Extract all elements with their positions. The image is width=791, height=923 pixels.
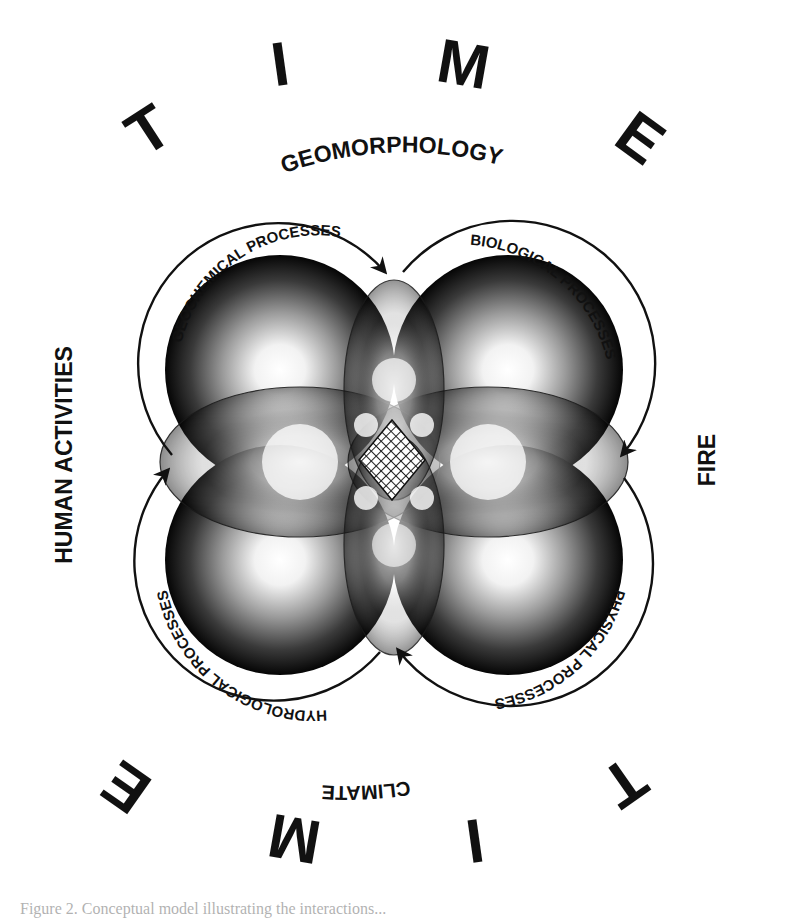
- time-letter-e: E: [604, 98, 678, 178]
- time-letter-m: M: [432, 25, 495, 102]
- time-letters-bottom: E M I T: [89, 743, 660, 877]
- driver-fire: FIRE: [694, 434, 720, 486]
- figure-caption: Figure 2. Conceptual model illustrating …: [20, 900, 780, 923]
- driver-geomorphology: GEOMORPHOLOGY: [277, 131, 505, 178]
- time-letter-t-bottom: T: [589, 743, 660, 821]
- time-letter-t: T: [114, 91, 183, 170]
- ecosystem-process-diagram: T I M E E M I T GEOMORPHOLOGY HUMAN ACTI…: [0, 0, 791, 923]
- time-letter-i: I: [267, 28, 294, 99]
- time-letter-m-bottom: M: [263, 801, 326, 878]
- time-letter-i-bottom: I: [462, 806, 489, 877]
- driver-human-activities: HUMAN ACTIVITIES: [51, 346, 77, 564]
- time-letter-e-bottom: E: [89, 747, 162, 827]
- driver-climate: CLIMATE: [321, 777, 412, 804]
- process-spheres: [160, 255, 628, 675]
